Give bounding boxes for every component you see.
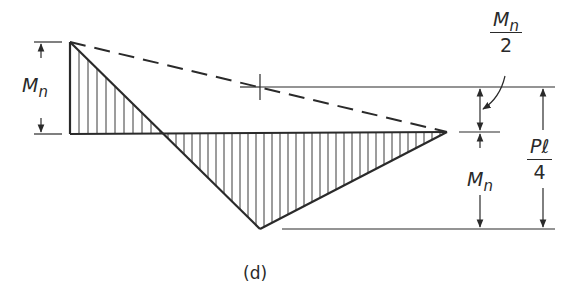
label-main: M <box>493 8 509 30</box>
figure-caption: (d) <box>243 265 267 282</box>
fraction-numerator: Pℓ <box>527 137 552 160</box>
fraction-denominator: 4 <box>527 160 552 182</box>
extension-lines <box>34 42 555 229</box>
label-main: M <box>22 74 38 96</box>
label-half-mn: Mn 2 <box>490 10 522 55</box>
label-sub: n <box>509 17 519 35</box>
label-lower-mn: Mn <box>467 170 493 189</box>
label-pl-over-4: Pℓ 4 <box>527 137 552 182</box>
label-left-mn: Mn <box>22 76 48 95</box>
hatch-right <box>168 130 440 232</box>
label-main: M <box>467 168 483 190</box>
midpoint-tick <box>240 74 260 100</box>
leader-arrow <box>483 76 505 109</box>
diagram-outline <box>70 42 447 229</box>
fraction-numerator: Mn <box>490 10 522 33</box>
moment-diagram <box>0 0 575 295</box>
label-sub: n <box>38 83 48 101</box>
fraction-denominator: 2 <box>490 33 522 55</box>
label-sub: n <box>483 177 493 195</box>
